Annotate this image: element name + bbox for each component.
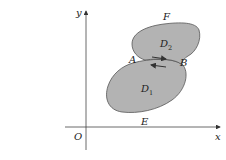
y-axis-label: y xyxy=(75,7,82,18)
point-e-label: E xyxy=(140,116,149,127)
origin-label: O xyxy=(74,131,82,142)
x-axis-label: x xyxy=(215,131,221,142)
diagram-canvas: y x O D1 D2 A B F E xyxy=(0,0,226,160)
point-f-label: F xyxy=(162,11,171,22)
point-a-label: A xyxy=(128,54,136,65)
point-b-label: B xyxy=(179,57,187,68)
